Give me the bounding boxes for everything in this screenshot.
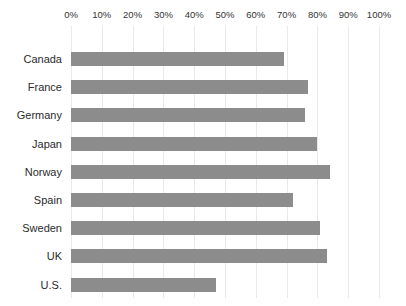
chart-row: Spain xyxy=(0,186,406,214)
x-tick-label: 30% xyxy=(154,9,173,20)
x-tick-label: 20% xyxy=(123,9,142,20)
x-tick-label: 80% xyxy=(308,9,327,20)
x-tick-label: 40% xyxy=(185,9,204,20)
category-label: UK xyxy=(0,242,62,270)
bar xyxy=(71,80,308,94)
category-label: Germany xyxy=(0,101,62,129)
category-label: Canada xyxy=(0,45,62,73)
chart-row: Norway xyxy=(0,158,406,186)
bar xyxy=(71,108,305,122)
chart-row: UK xyxy=(0,242,406,270)
category-label: France xyxy=(0,73,62,101)
bar xyxy=(71,193,293,207)
category-label: Norway xyxy=(0,158,62,186)
chart-row: Canada xyxy=(0,45,406,73)
chart-row: Japan xyxy=(0,130,406,158)
x-tick-label: 60% xyxy=(246,9,265,20)
x-tick-label: 90% xyxy=(339,9,358,20)
x-axis: 0%10%20%30%40%50%60%70%80%90%100% xyxy=(0,0,406,24)
bar-rows: CanadaFranceGermanyJapanNorwaySpainSwede… xyxy=(0,45,406,299)
x-tick-label: 0% xyxy=(64,9,78,20)
category-label: U.S. xyxy=(0,271,62,299)
bar xyxy=(71,165,330,179)
category-label: Sweden xyxy=(0,214,62,242)
chart-row: France xyxy=(0,73,406,101)
chart-row: U.S. xyxy=(0,271,406,299)
bar-chart: 0%10%20%30%40%50%60%70%80%90%100% Canada… xyxy=(0,0,406,306)
bar xyxy=(71,52,284,66)
bar xyxy=(71,249,327,263)
chart-row: Germany xyxy=(0,101,406,129)
x-tick-label: 100% xyxy=(367,9,391,20)
category-label: Spain xyxy=(0,186,62,214)
x-tick-label: 10% xyxy=(92,9,111,20)
x-tick-label: 50% xyxy=(215,9,234,20)
bar xyxy=(71,137,317,151)
bar xyxy=(71,278,216,292)
chart-row: Sweden xyxy=(0,214,406,242)
x-tick-label: 70% xyxy=(277,9,296,20)
category-label: Japan xyxy=(0,130,62,158)
bar xyxy=(71,221,320,235)
